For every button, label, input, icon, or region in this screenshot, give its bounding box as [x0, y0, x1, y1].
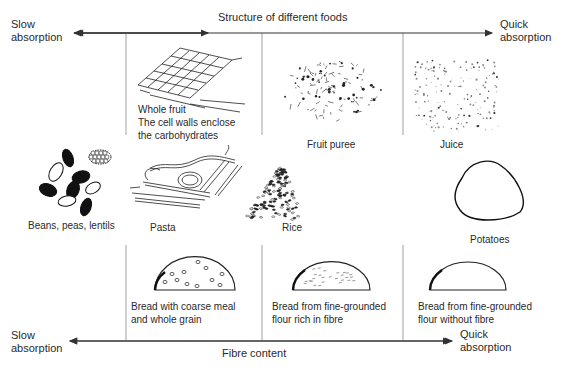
bottom-left-label-line2: absorption — [11, 342, 62, 355]
top-left-label-line1: Slow — [11, 18, 62, 31]
white-bread-line1: Bread from fine-grounded — [418, 300, 532, 313]
bottom-left-label: Slow absorption — [11, 329, 62, 355]
fibre-bread-line2: flour rich in fibre — [272, 313, 386, 326]
top-axis-title: Structure of different foods — [218, 11, 347, 23]
fibre-bread-line1: Bread from fine-grounded — [272, 300, 386, 313]
whole-fruit-label: Whole fruit The cell walls enclose the c… — [138, 103, 235, 142]
bottom-axis-title: Fibre content — [222, 347, 286, 359]
coarse-bread-line2: and whole grain — [131, 313, 236, 326]
rice-label: Rice — [282, 221, 302, 234]
top-right-label: Quick absorption — [500, 18, 551, 44]
white-bread-line2: flour without fibre — [418, 313, 532, 326]
bottom-right-label: Quick absorption — [460, 328, 511, 354]
coarse-bread-label: Bread with coarse meal and whole grain — [131, 300, 236, 326]
pasta-label: Pasta — [150, 221, 176, 234]
whole-fruit-title: Whole fruit — [138, 103, 235, 116]
top-right-label-line1: Quick — [500, 18, 551, 31]
top-right-label-line2: absorption — [500, 31, 551, 44]
fibre-bread-label: Bread from fine-grounded flour rich in f… — [272, 300, 386, 326]
whole-fruit-desc-1: The cell walls enclose — [138, 116, 235, 129]
top-left-label: Slow absorption — [11, 18, 62, 44]
bottom-right-label-line2: absorption — [460, 341, 511, 354]
beans-label: Beans, peas, lentils — [28, 219, 115, 232]
bottom-right-label-line1: Quick — [460, 328, 511, 341]
fruit-puree-label: Fruit puree — [307, 138, 355, 151]
potatoes-label: Potatoes — [470, 233, 509, 246]
white-bread-label: Bread from fine-grounded flour without f… — [418, 300, 532, 326]
coarse-bread-line1: Bread with coarse meal — [131, 300, 236, 313]
bottom-left-label-line1: Slow — [11, 329, 62, 342]
top-left-label-line2: absorption — [11, 31, 62, 44]
whole-fruit-desc-2: the carbohydrates — [138, 129, 235, 142]
juice-label: Juice — [440, 138, 463, 151]
